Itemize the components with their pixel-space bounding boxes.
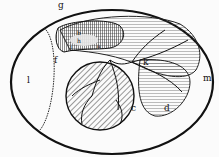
label-a: a <box>97 43 101 49</box>
embryo-light-spot <box>70 34 98 46</box>
label-c: c <box>131 104 136 113</box>
egg-anatomy-figure: g b h i a f l k m c d <box>0 0 219 157</box>
label-m: m <box>203 74 212 83</box>
label-b: b <box>77 30 81 36</box>
label-k: k <box>143 58 148 67</box>
label-i: i <box>70 44 72 50</box>
yolk-sac <box>66 62 134 130</box>
egg-diagram <box>0 0 219 157</box>
label-l: l <box>27 76 30 85</box>
air-chamber <box>40 28 54 130</box>
label-h: h <box>77 38 81 44</box>
label-f: f <box>54 56 57 65</box>
label-d: d <box>164 104 170 113</box>
label-g: g <box>58 1 64 10</box>
